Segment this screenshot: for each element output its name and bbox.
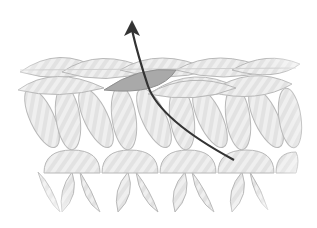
knitting-diagram xyxy=(0,0,317,228)
